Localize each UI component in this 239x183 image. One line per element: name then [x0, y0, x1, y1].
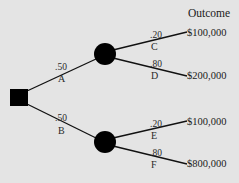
branch-e-prob: .20	[150, 119, 162, 129]
branch-b-prob: .50	[55, 113, 67, 123]
branch-d-label: D	[151, 71, 158, 81]
outcome-e-value: $100,000	[187, 117, 226, 127]
outcome-f-value: $800,000	[187, 159, 226, 169]
chance-node-a-circle	[94, 43, 116, 65]
chance-node-b-circle	[94, 131, 116, 153]
branch-f-label: F	[151, 160, 157, 170]
branch-e-label: E	[151, 131, 157, 141]
branch-a-label: A	[58, 74, 65, 84]
branch-c-label: C	[151, 42, 158, 52]
outcome-header: Outcome	[188, 8, 230, 18]
branch-c-prob: .20	[150, 30, 162, 40]
branch-b-label: B	[58, 126, 65, 136]
branch-d-prob: .80	[150, 59, 162, 69]
branch-a-prob: .50	[55, 62, 67, 72]
outcome-d-value: $200,000	[187, 71, 226, 81]
branch-f-prob: .80	[150, 148, 162, 158]
decision-tree-diagram: Outcome .50 A .50 B .20 C $100,000 .80 D…	[0, 0, 239, 183]
decision-node-square	[10, 89, 28, 106]
outcome-c-value: $100,000	[187, 28, 226, 38]
